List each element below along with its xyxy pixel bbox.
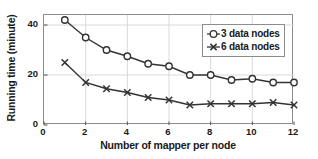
y-tick-label: 40 [12,18,38,29]
legend-label: 6 data nodes [221,41,280,52]
circle-marker-icon [207,28,220,40]
y-tick-label: 20 [12,68,38,79]
x-tick-label: 12 [281,126,305,137]
x-tick-label: 6 [156,126,180,137]
legend-item: 3 data nodes [207,27,280,40]
x-tick-label: 10 [239,126,263,137]
legend-item: 6 data nodes [207,40,280,53]
x-tick-label: 2 [73,126,97,137]
x-tick-label: 8 [198,126,222,137]
chart-figure: Running time (minute) Number of mapper p… [0,0,318,159]
legend-label: 3 data nodes [221,28,280,39]
x-marker-icon [207,41,220,53]
x-tick-label: 0 [31,126,55,137]
chart-legend: 3 data nodes 6 data nodes [202,24,285,57]
x-tick-label: 4 [114,126,138,137]
